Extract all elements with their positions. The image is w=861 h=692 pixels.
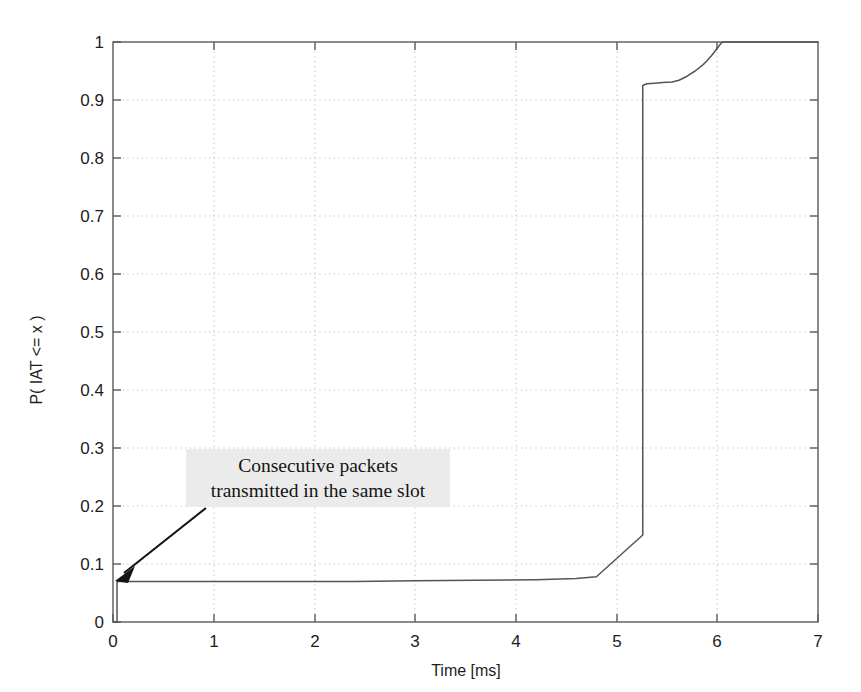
figure-container: 1 0.9 0.8 0.7 0.6 0.5 0.4 0.3 0.2 0.1 0 … [0, 0, 861, 692]
annotation-line-2: transmitted in the same slot [211, 480, 426, 501]
x-tick-label: 7 [813, 632, 822, 651]
y-tick-label: 0.4 [80, 381, 104, 400]
cdf-chart: 1 0.9 0.8 0.7 0.6 0.5 0.4 0.3 0.2 0.1 0 … [0, 0, 861, 692]
y-tick-label: 0.5 [80, 323, 104, 342]
y-tick-label: 0.8 [80, 149, 104, 168]
y-axis-title: P( IAT <= x ) [28, 315, 45, 404]
x-tick-label: 3 [410, 632, 419, 651]
x-tick-label: 4 [511, 632, 520, 651]
x-axis-title: Time [ms] [431, 662, 501, 679]
y-tick-label: 0.3 [80, 439, 104, 458]
x-tick-label: 2 [310, 632, 319, 651]
x-tick-label: 0 [108, 632, 117, 651]
y-tick-label: 0.6 [80, 265, 104, 284]
y-tick-label: 0.2 [80, 497, 104, 516]
y-tick-label: 1 [95, 33, 104, 52]
y-tick-label: 0.1 [80, 555, 104, 574]
x-tick-label: 5 [612, 632, 621, 651]
y-tick-label: 0.9 [80, 91, 104, 110]
x-tick-label: 6 [712, 632, 721, 651]
y-tick-label: 0 [95, 613, 104, 632]
chart-background [0, 0, 861, 692]
x-tick-label: 1 [209, 632, 218, 651]
y-tick-label: 0.7 [80, 207, 104, 226]
annotation-line-1: Consecutive packets [238, 455, 398, 476]
